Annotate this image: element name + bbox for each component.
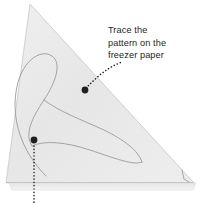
callout-dot-lower xyxy=(31,137,38,144)
callout-dot-upper xyxy=(82,87,89,94)
illustration-canvas: Trace the pattern on the freezer paper xyxy=(0,0,200,203)
callout-label-line-2: pattern on the xyxy=(108,37,196,50)
callout-label-freezer-paper: Trace the pattern on the freezer paper xyxy=(108,24,196,62)
callout-label-line-3: freezer paper xyxy=(108,49,196,62)
callout-label-line-1: Trace the xyxy=(108,24,196,37)
paper-under-strip xyxy=(9,183,196,190)
